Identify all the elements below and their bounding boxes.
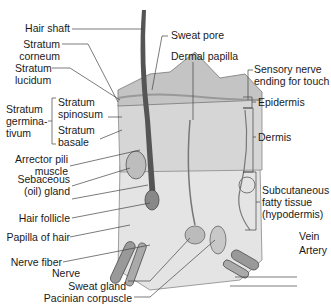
label-subcutaneous-fatty-tissue: Subcutaneousfatty tissue(hypodermis) — [262, 184, 329, 220]
label-epidermis: Epidermis — [258, 96, 305, 108]
label-dermis: Dermis — [258, 131, 291, 143]
hair-bulb — [145, 190, 159, 210]
label-vein: Vein — [299, 230, 319, 242]
label-sweat-gland: Sweat gland — [40, 280, 126, 292]
label-pacinian-corpuscle: Pacinian corpuscle — [20, 292, 132, 304]
label-stratum-spinosum: Stratumspinosum — [58, 96, 103, 120]
label-hair-follicle: Hair follicle — [0, 212, 70, 224]
label-stratum-lucidum: Stratumlucidum — [15, 62, 52, 86]
label-dermal-papilla: Dermal papilla — [171, 50, 238, 62]
label-sebaceous-gland: Sebaceous(oil) gland — [4, 173, 70, 197]
label-sensory-nerve-ending: Sensory nerveending for touch — [254, 63, 329, 87]
label-artery: Artery — [299, 244, 327, 256]
label-papilla-of-hair: Papilla of hair — [0, 231, 70, 243]
label-stratum-basale: Stratumbasale — [58, 124, 95, 148]
label-hair-shaft: Hair shaft — [20, 22, 70, 34]
label-sweat-pore: Sweat pore — [171, 29, 224, 41]
label-nerve: Nerve — [20, 267, 80, 279]
label-stratum-germinativum: Stratumgermina-tivum — [6, 103, 47, 139]
label-stratum-corneum: Stratumcorneum — [14, 38, 60, 62]
